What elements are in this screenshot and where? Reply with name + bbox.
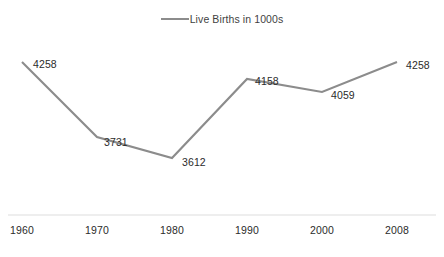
- line-chart: Live Births in 1000s 4258 3731 3612 4158…: [0, 0, 444, 257]
- x-axis-tick-2008: 2008: [385, 225, 409, 236]
- data-label: 4158: [255, 76, 279, 87]
- plot-area: [0, 0, 444, 257]
- data-label: 3612: [182, 157, 206, 168]
- data-label: 4258: [406, 60, 430, 71]
- x-axis-tick-1970: 1970: [85, 225, 109, 236]
- data-label: 4059: [331, 90, 355, 101]
- data-label: 4258: [33, 59, 57, 70]
- data-label: 3731: [104, 137, 128, 148]
- x-axis-tick-1980: 1980: [160, 225, 184, 236]
- x-axis-tick-1960: 1960: [10, 225, 34, 236]
- x-axis-tick-1990: 1990: [235, 225, 259, 236]
- series-line-live-births: [22, 62, 397, 158]
- x-axis-tick-2000: 2000: [310, 225, 334, 236]
